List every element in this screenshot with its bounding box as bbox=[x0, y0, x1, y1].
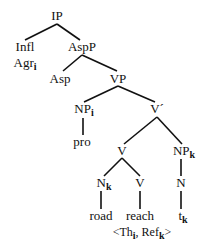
node-aspp: AspP bbox=[68, 40, 96, 54]
node-trace-k: tk bbox=[178, 209, 187, 227]
node-road: road bbox=[89, 209, 112, 223]
node-infl: Infl bbox=[16, 40, 35, 54]
node-reach: reach bbox=[126, 209, 154, 223]
node-agr: Agri bbox=[14, 56, 37, 74]
node-np-i: NPi bbox=[74, 102, 93, 120]
node-v-head: V bbox=[135, 176, 144, 190]
node-np-k: NPk bbox=[173, 144, 195, 162]
node-pro: pro bbox=[73, 135, 90, 149]
node-n-k: Nk bbox=[97, 176, 112, 194]
node-vp: VP bbox=[110, 72, 127, 86]
theta-grid: <Thi, Refk> bbox=[113, 225, 172, 243]
node-asp: Asp bbox=[50, 72, 71, 86]
node-v: V bbox=[117, 144, 126, 158]
node-n: N bbox=[176, 176, 185, 190]
syntax-tree-diagram: IP Infl Agri AspP Asp VP NPi V´ pro V NP… bbox=[0, 0, 208, 245]
node-ip: IP bbox=[51, 9, 63, 23]
node-v-bar: V´ bbox=[150, 102, 164, 116]
